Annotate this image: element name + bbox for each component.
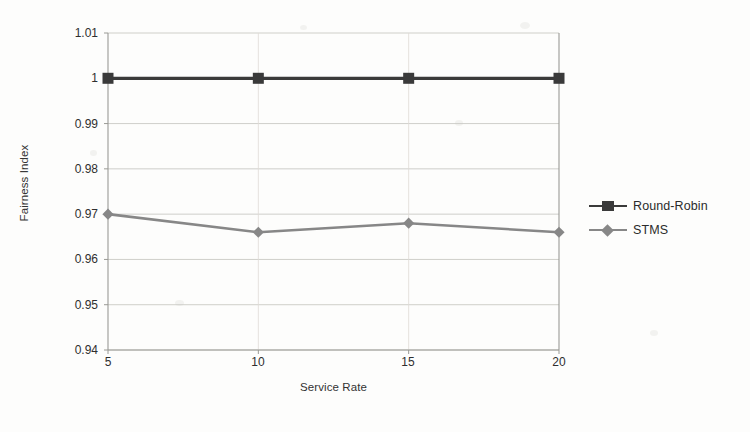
data-point-marker-diamond [102, 209, 113, 220]
fairness-index-line-chart: Fairness Index 0.94 0.95 0.96 0.97 0.98 … [0, 0, 750, 432]
data-point-marker-diamond [253, 227, 264, 238]
axis-ticks [104, 33, 559, 354]
data-point-marker-square [554, 73, 565, 84]
legend-marker-square-icon [589, 199, 627, 213]
legend-item-round-robin[interactable]: Round-Robin [589, 194, 747, 218]
legend-marker-diamond-icon [589, 223, 627, 237]
series-line-stms [108, 214, 559, 232]
gridlines [108, 33, 559, 350]
chart-legend: Round-Robin STMS [589, 194, 747, 242]
axis-lines [108, 33, 559, 350]
legend-label: Round-Robin [633, 199, 708, 213]
data-point-marker-diamond [403, 218, 414, 229]
data-series-layer [102, 73, 564, 238]
legend-label: STMS [633, 223, 668, 237]
legend-item-stms[interactable]: STMS [589, 218, 747, 242]
data-point-marker-square [403, 73, 414, 84]
data-point-marker-square [253, 73, 264, 84]
data-point-marker-square [103, 73, 114, 84]
data-point-marker-diamond [553, 227, 564, 238]
